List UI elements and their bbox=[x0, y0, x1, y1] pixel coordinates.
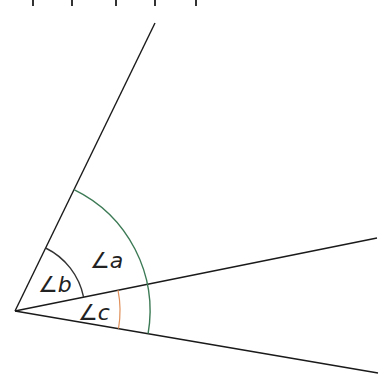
angle-c-arc bbox=[118, 290, 120, 329]
angle-diagram: ∠a ∠b ∠c bbox=[0, 0, 387, 379]
upper-ray bbox=[15, 23, 155, 311]
lower-ray bbox=[15, 311, 378, 373]
angle-b-label: ∠b bbox=[38, 272, 72, 297]
angle-c-label: ∠c bbox=[78, 300, 110, 325]
angle-a-label: ∠a bbox=[90, 248, 123, 273]
rays bbox=[15, 23, 378, 373]
